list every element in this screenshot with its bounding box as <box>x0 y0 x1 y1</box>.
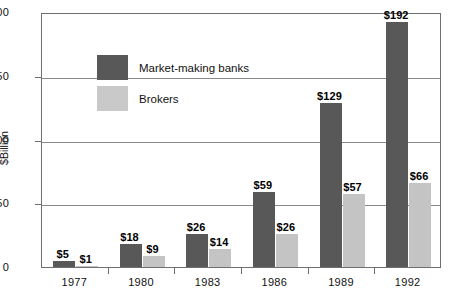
data-label-1977-brokers: $1 <box>80 253 92 265</box>
x-tick-label-1989: 1989 <box>328 276 354 288</box>
x-tick-label-1986: 1986 <box>261 276 287 288</box>
bar-1989-banks <box>320 103 342 267</box>
data-label-1989-banks: $129 <box>317 90 342 102</box>
x-tick-mark-3 <box>241 268 242 274</box>
y-tick-label-0: 0 <box>3 261 9 273</box>
x-tick-mark-2 <box>174 268 175 274</box>
bar-1989-brokers <box>343 194 365 267</box>
data-label-1986-brokers: $26 <box>277 221 296 233</box>
bar-1983-banks <box>186 234 208 267</box>
data-label-1992-banks: $192 <box>384 9 409 21</box>
x-tick-mark-4 <box>308 268 309 274</box>
bar-1980-brokers <box>143 256 165 267</box>
data-label-1983-banks: $26 <box>187 221 206 233</box>
gridline-50 <box>42 205 440 206</box>
x-tick-label-1992: 1992 <box>395 276 421 288</box>
data-label-1989-brokers: $57 <box>343 181 362 193</box>
x-tick-mark-1 <box>108 268 109 274</box>
data-label-1980-banks: $18 <box>120 231 139 243</box>
legend-label-market-making-banks: Market-making banks <box>139 62 249 74</box>
bar-1977-brokers <box>76 266 98 268</box>
legend-label-brokers: Brokers <box>139 93 179 105</box>
bar-1992-brokers <box>409 183 431 267</box>
legend-swatch-dark-icon <box>97 55 128 80</box>
bar-1986-brokers <box>276 234 298 267</box>
x-tick-mark-5 <box>374 268 375 274</box>
legend-swatch-light-icon <box>97 86 128 111</box>
x-tick-label-1977: 1977 <box>61 276 87 288</box>
y-tick-label-100: 100 <box>0 134 9 146</box>
data-label-1983-brokers: $14 <box>210 236 229 248</box>
gridline-100 <box>42 142 440 143</box>
y-tick-label-150: 150 <box>0 70 9 82</box>
data-label-1977-banks: $5 <box>57 248 69 260</box>
bar-1986-banks <box>253 192 275 267</box>
bar-1983-brokers <box>209 249 231 267</box>
bar-1992-banks <box>386 22 408 267</box>
bar-chart: $Billion 050100150200 Market-making bank… <box>0 0 456 297</box>
y-tick-label-200: 200 <box>0 6 9 18</box>
bar-1977-banks <box>53 261 75 267</box>
data-label-1980-brokers: $9 <box>146 243 158 255</box>
x-tick-label-1980: 1980 <box>128 276 154 288</box>
data-label-1992-brokers: $66 <box>410 170 429 182</box>
bar-1980-banks <box>120 244 142 267</box>
data-label-1986-banks: $59 <box>254 179 273 191</box>
plot-area: Market-making banks Brokers <box>41 13 441 268</box>
x-tick-label-1983: 1983 <box>195 276 221 288</box>
y-tick-label-50: 50 <box>0 197 9 209</box>
